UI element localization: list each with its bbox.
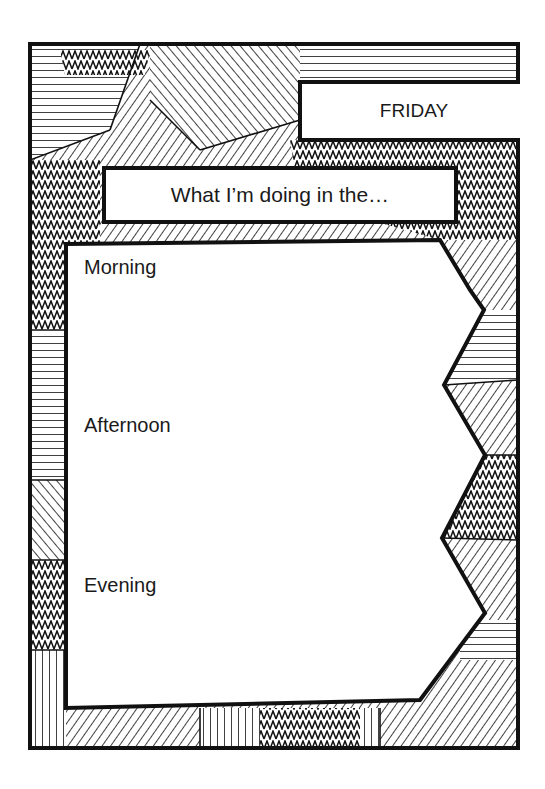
slot-label-morning: Morning	[84, 256, 156, 279]
slot-label-evening: Evening	[84, 574, 156, 597]
day-title: FRIDAY	[300, 82, 518, 140]
content-area	[66, 240, 485, 708]
planner-page: FRIDAY What I’m doing in the… Morning Af…	[0, 0, 545, 789]
page-heading: What I’m doing in the…	[104, 168, 456, 222]
slot-label-afternoon: Afternoon	[84, 414, 171, 437]
